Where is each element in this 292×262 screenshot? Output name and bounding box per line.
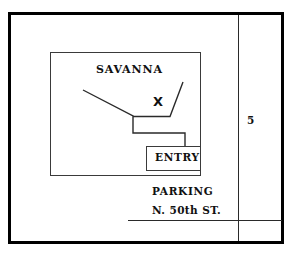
building-name-label: SAVANNA — [96, 64, 163, 75]
site-map-drawing — [0, 0, 292, 262]
corridor-number-label: 5 — [247, 115, 255, 126]
location-marker-x: X — [153, 95, 163, 108]
parking-label: PARKING — [152, 186, 214, 197]
map-background — [0, 0, 292, 262]
street-name-label: N. 50th ST. — [152, 205, 221, 216]
site-map-figure: SAVANNA X ENTRY PARKING N. 50th ST. 5 — [0, 0, 292, 262]
entry-label: ENTRY — [155, 152, 200, 163]
